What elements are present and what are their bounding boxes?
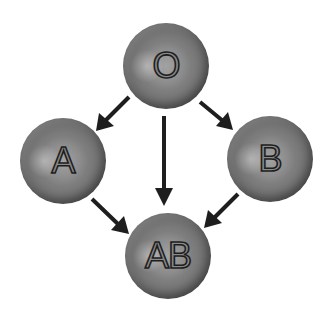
arrow-o-to-b <box>200 102 233 130</box>
arrow-b-to-ab <box>204 194 238 228</box>
arrow-a-to-ab <box>92 199 129 234</box>
blood-type-diagram: O A B AB <box>0 0 330 317</box>
arrow-o-to-a <box>96 97 129 131</box>
node-b-label: B <box>258 141 281 177</box>
arrow-o-to-ab <box>155 116 173 206</box>
node-b: B <box>227 116 313 202</box>
node-o-label: O <box>152 48 179 84</box>
node-ab: AB <box>125 213 211 299</box>
node-a: A <box>20 118 106 204</box>
node-a-label: A <box>51 143 74 179</box>
node-ab-label: AB <box>145 238 191 274</box>
node-o: O <box>123 23 209 109</box>
